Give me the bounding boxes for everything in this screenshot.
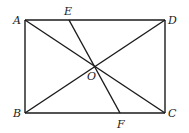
- geometry-diagram: A B C D E F O: [0, 0, 189, 133]
- label-F: F: [116, 118, 125, 131]
- label-O: O: [87, 70, 96, 83]
- label-D: D: [167, 14, 177, 27]
- label-B: B: [12, 107, 21, 120]
- label-E: E: [63, 5, 72, 18]
- label-A: A: [12, 14, 21, 27]
- segment-EF: [69, 20, 120, 113]
- label-C: C: [168, 107, 177, 120]
- segments: [25, 20, 165, 113]
- point-labels: A B C D E F O: [12, 5, 177, 131]
